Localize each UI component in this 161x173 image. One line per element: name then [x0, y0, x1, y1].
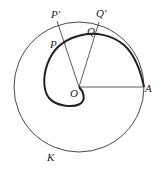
spiral-curve [44, 34, 144, 106]
label-p: P [49, 38, 57, 50]
label-k: K [46, 151, 55, 163]
label-q: Q [87, 25, 95, 37]
spiral-diagram: P' Q' P Q O A K [0, 0, 161, 173]
label-a: A [144, 82, 152, 94]
label-p-prime: P' [50, 8, 61, 20]
label-q-prime: Q' [96, 7, 107, 19]
segment-op-prime [57, 21, 79, 87]
label-o: O [70, 87, 78, 99]
